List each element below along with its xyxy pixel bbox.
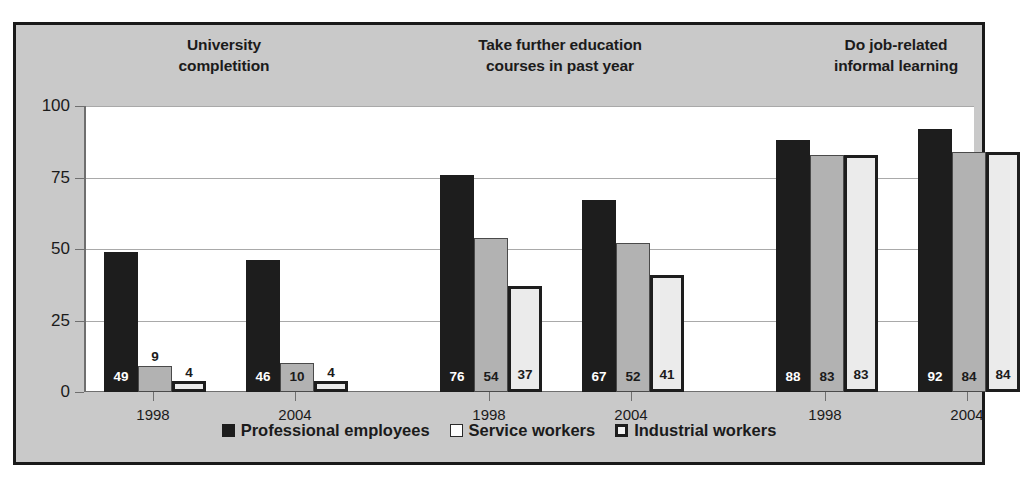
- bar-value-label: 84: [953, 370, 985, 384]
- bar-value-label: 54: [475, 370, 507, 384]
- y-axis-tick-label: 50: [16, 239, 70, 259]
- bar-professional-employees[interactable]: 76: [440, 175, 474, 392]
- group-title-informal-learning: Do job-related informal learning: [756, 35, 1024, 77]
- bar-industrial-workers[interactable]: 37: [508, 286, 542, 392]
- bar-service-workers[interactable]: 52: [616, 243, 650, 392]
- x-axis-tick: [295, 392, 296, 401]
- group-titles-band: University completition Take further edu…: [16, 25, 982, 103]
- group-title-university: University completition: [84, 35, 364, 77]
- x-axis-tick: [153, 392, 154, 401]
- group-title-line1: Take further education: [478, 36, 642, 53]
- bar-value-label: 9: [139, 350, 171, 364]
- bar-service-workers[interactable]: 83: [810, 155, 844, 392]
- bar-value-label: 92: [919, 370, 951, 384]
- x-axis-tick: [631, 392, 632, 401]
- group-title-further-education: Take further education courses in past y…: [420, 35, 700, 77]
- y-axis-tick-label: 0: [16, 382, 70, 402]
- chart-frame: University completition Take further edu…: [13, 22, 985, 465]
- legend-label: Industrial workers: [634, 421, 776, 440]
- legend-item-industrial-workers[interactable]: Industrial workers: [615, 421, 776, 440]
- group-title-line2: courses in past year: [486, 57, 634, 74]
- legend-item-professional-employees[interactable]: Professional employees: [222, 421, 430, 440]
- filled-black-square-icon: [222, 424, 235, 437]
- group-title-line2: informal learning: [834, 57, 958, 74]
- bar-professional-employees[interactable]: 67: [582, 200, 616, 392]
- bar-industrial-workers[interactable]: 41: [650, 275, 684, 392]
- bar-professional-employees[interactable]: 46: [246, 260, 280, 392]
- y-axis-tick: [75, 178, 84, 179]
- bar-value-label: 67: [583, 370, 615, 384]
- bar-value-label: 10: [281, 370, 313, 384]
- x-axis-tick: [489, 392, 490, 401]
- bar-industrial-workers[interactable]: 4: [314, 381, 348, 392]
- bar-professional-employees[interactable]: 49: [104, 252, 138, 392]
- bar-value-label: 46: [247, 370, 279, 384]
- plot-area: 499446104765437675241888383928484: [84, 106, 974, 392]
- legend-label: Service workers: [469, 421, 596, 440]
- group-title-line1: Do job-related: [845, 36, 948, 53]
- bar-value-label: 84: [989, 368, 1017, 382]
- bar-professional-employees[interactable]: 92: [918, 129, 952, 392]
- y-axis-tick: [75, 106, 84, 107]
- x-axis-tick: [825, 392, 826, 401]
- y-axis-tick: [75, 249, 84, 250]
- bar-value-label: 4: [317, 366, 345, 380]
- legend-label: Professional employees: [241, 421, 430, 440]
- outlined-white-square-icon: [450, 424, 463, 437]
- gridline: [86, 106, 974, 107]
- group-title-line2: completition: [179, 57, 270, 74]
- bar-value-label: 52: [617, 370, 649, 384]
- bar-value-label: 41: [653, 368, 681, 382]
- bar-value-label: 83: [811, 370, 843, 384]
- bar-service-workers[interactable]: 84: [952, 152, 986, 392]
- y-axis-tick-label: 25: [16, 311, 70, 331]
- x-axis-tick: [967, 392, 968, 401]
- bar-value-label: 49: [105, 370, 137, 384]
- y-axis-tick: [75, 392, 84, 393]
- bar-professional-employees[interactable]: 88: [776, 140, 810, 392]
- bar-value-label: 76: [441, 370, 473, 384]
- legend-item-service-workers[interactable]: Service workers: [450, 421, 596, 440]
- bar-industrial-workers[interactable]: 84: [986, 152, 1020, 392]
- bar-service-workers[interactable]: 54: [474, 238, 508, 392]
- chart-legend: Professional employees Service workers I…: [16, 421, 982, 440]
- group-title-line1: University: [187, 36, 261, 53]
- bar-value-label: 4: [175, 366, 203, 380]
- y-axis-tick: [75, 321, 84, 322]
- y-axis-tick-label: 100: [16, 96, 70, 116]
- bar-value-label: 83: [847, 368, 875, 382]
- bar-value-label: 37: [511, 368, 539, 382]
- bar-industrial-workers[interactable]: 83: [844, 155, 878, 392]
- bar-value-label: 88: [777, 370, 809, 384]
- bar-service-workers[interactable]: 10: [280, 363, 314, 392]
- bar-industrial-workers[interactable]: 4: [172, 381, 206, 392]
- y-axis-tick-label: 75: [16, 168, 70, 188]
- thick-outlined-square-icon: [615, 424, 628, 437]
- bar-service-workers[interactable]: 9: [138, 366, 172, 392]
